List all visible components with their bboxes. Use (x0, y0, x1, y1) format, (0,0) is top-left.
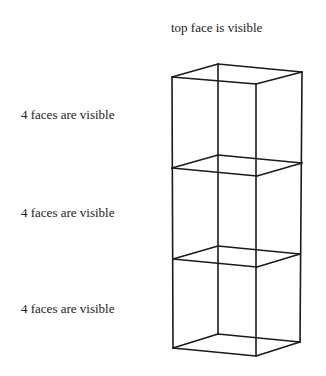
divider-2-edge-back-right (218, 246, 300, 254)
divider-1-edge-back-right (218, 155, 302, 163)
bottom-edge-front-left (173, 348, 256, 356)
divider-2-edge-right-front (257, 254, 300, 267)
vertical-edge-left (172, 77, 173, 348)
top-edge-left-back (172, 64, 218, 77)
vertical-edge-right (300, 72, 302, 342)
bottom-edge-back-right (218, 334, 300, 342)
top-edge-right-front (256, 72, 302, 84)
top-edge-back-right (218, 64, 302, 72)
bottom-edge-left-back (173, 334, 218, 348)
divider-2-edge-left-back (173, 246, 218, 259)
divider-1-edge-right-front (257, 163, 302, 176)
divider-2-edge-front-left (173, 259, 257, 267)
bottom-edge-right-front (256, 342, 300, 356)
divider-1-edge-front-left (172, 168, 257, 176)
stacked-cubes-diagram (0, 0, 326, 376)
divider-1-edge-left-back (172, 155, 218, 168)
top-edge-front-left (172, 77, 256, 84)
